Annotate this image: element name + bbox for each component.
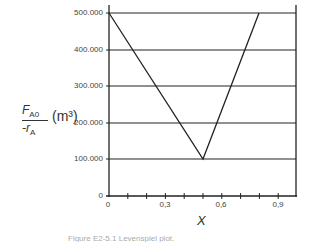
x-tick-label: 0,9 xyxy=(272,200,283,209)
y-tick-label: 100.000 xyxy=(35,154,103,163)
y-tick-label: 0 xyxy=(35,191,103,200)
x-tick-label: 0,3 xyxy=(159,200,170,209)
unit-label: (m³) xyxy=(52,108,78,124)
y-tick-label: 500.000 xyxy=(35,8,103,17)
x-tick-label: 0 xyxy=(106,200,110,209)
x-tick-label: 0,6 xyxy=(215,200,226,209)
denominator: -rA xyxy=(22,121,35,137)
numerator: FA0 xyxy=(22,103,39,119)
y-axis-label: FA0 -rA (m³) xyxy=(20,103,100,143)
y-tick-label: 300.000 xyxy=(35,81,103,90)
x-axis-label: X xyxy=(197,213,206,228)
figure-caption: Figure E2-5.1 Levenspiel plot. xyxy=(68,234,174,242)
y-tick-label: 400.000 xyxy=(35,45,103,54)
